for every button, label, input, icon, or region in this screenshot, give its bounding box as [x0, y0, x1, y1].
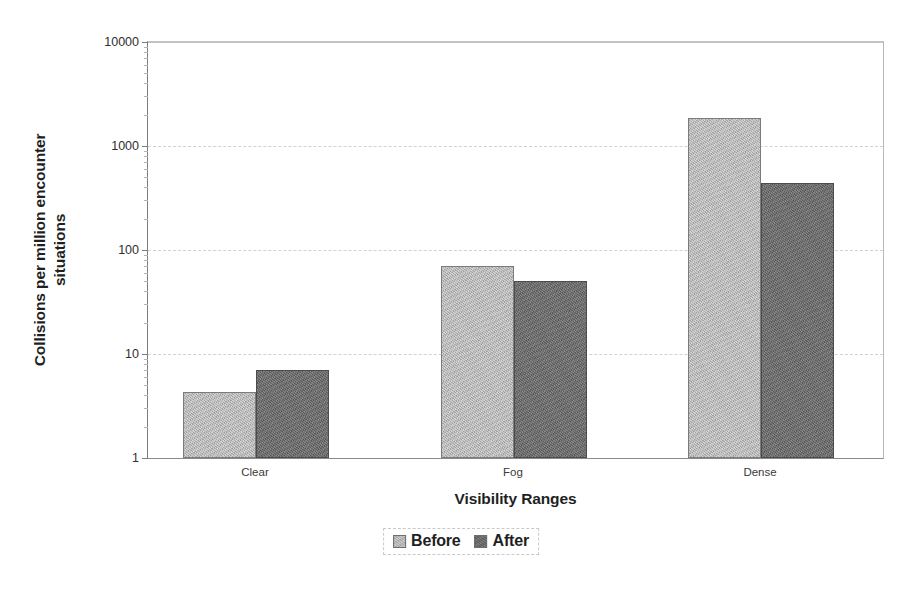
bar-fog-after	[514, 281, 587, 458]
bar-dense-after	[761, 183, 834, 458]
y-axis-minor-tick	[144, 364, 148, 365]
bar-clear-before	[183, 392, 256, 458]
y-axis-minor-tick	[144, 52, 148, 53]
y-axis-minor-tick	[144, 255, 148, 256]
y-axis-minor-tick	[144, 187, 148, 188]
y-axis-minor-tick	[144, 385, 148, 386]
y-axis-minor-tick	[144, 65, 148, 66]
legend-item-after: After	[475, 532, 529, 550]
y-axis-minor-tick	[144, 96, 148, 97]
y-axis-minor-tick	[144, 151, 148, 152]
x-axis-category-label: Dense	[743, 466, 776, 478]
y-axis-minor-tick	[144, 169, 148, 170]
y-axis-minor-tick	[144, 200, 148, 201]
y-axis-minor-tick	[144, 427, 148, 428]
y-axis-major-tick	[142, 354, 148, 355]
y-axis-minor-tick	[144, 281, 148, 282]
y-axis-minor-tick	[144, 219, 148, 220]
y-gridline	[148, 42, 883, 43]
y-axis-minor-tick	[144, 260, 148, 261]
y-axis-minor-tick	[144, 266, 148, 267]
y-axis-major-tick	[142, 250, 148, 251]
legend-item-before: Before	[393, 532, 460, 550]
bar-clear-after	[256, 370, 329, 458]
y-axis-minor-tick	[144, 73, 148, 74]
y-axis-minor-tick	[144, 304, 148, 305]
y-axis-tick-label: 1000	[111, 139, 139, 153]
y-axis-title-line-1: Collisions per million encounter	[30, 134, 47, 367]
y-axis-tick-label: 10000	[104, 35, 139, 49]
x-axis-title: Visibility Ranges	[147, 490, 884, 508]
y-axis-minor-tick	[144, 370, 148, 371]
y-axis-title: Collisions per million encounter situati…	[14, 60, 84, 440]
y-axis-minor-tick	[144, 377, 148, 378]
y-axis-minor-tick	[144, 273, 148, 274]
x-axis-category-label: Fog	[503, 466, 523, 478]
y-axis-minor-tick	[144, 162, 148, 163]
chart-figure: Collisions per million encounter situati…	[0, 0, 922, 589]
legend-swatch-icon	[393, 535, 406, 548]
y-axis-tick-label: 1	[132, 451, 139, 465]
y-axis-major-tick	[142, 146, 148, 147]
y-axis-minor-tick	[144, 115, 148, 116]
x-axis-category-label: Clear	[241, 466, 268, 478]
y-axis-minor-tick	[144, 323, 148, 324]
plot-area: 110100100010000	[147, 41, 884, 459]
y-axis-minor-tick	[144, 291, 148, 292]
bar-fog-before	[441, 266, 514, 458]
y-axis-major-tick	[142, 458, 148, 459]
bar-dense-before	[688, 118, 761, 458]
y-axis-minor-tick	[144, 83, 148, 84]
y-axis-minor-tick	[144, 58, 148, 59]
legend-label: After	[493, 532, 529, 550]
y-axis-minor-tick	[144, 177, 148, 178]
y-gridline	[148, 146, 883, 147]
chart-legend: BeforeAfter	[383, 528, 539, 555]
legend-swatch-icon	[475, 535, 488, 548]
y-axis-minor-tick	[144, 395, 148, 396]
y-axis-tick-label: 100	[118, 243, 139, 257]
y-axis-major-tick	[142, 42, 148, 43]
legend-label: Before	[411, 532, 460, 550]
y-axis-tick-label: 10	[125, 347, 139, 361]
y-axis-minor-tick	[144, 156, 148, 157]
y-axis-minor-tick	[144, 408, 148, 409]
y-axis-minor-tick	[144, 359, 148, 360]
y-axis-title-line-2: situations	[50, 214, 67, 286]
y-axis-minor-tick	[144, 47, 148, 48]
